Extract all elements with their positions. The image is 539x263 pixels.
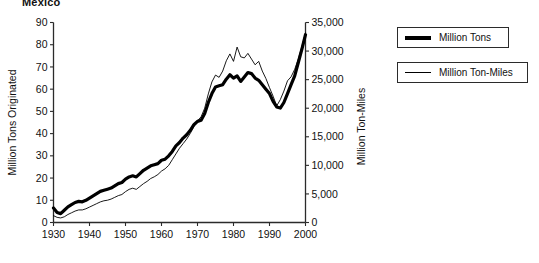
y-tick-label-left: 90 [36,16,48,28]
legend-label-million-tons: Million Tons [439,32,491,43]
y-tick-label-left: 70 [36,61,48,73]
series-line-1 [54,35,306,214]
y-tick-label-left: 30 [36,149,48,161]
y-tick-label-right: 25,000 [312,73,344,85]
x-tick-label: 1970 [186,228,210,240]
y-tick-label-right: 0 [312,216,318,228]
y-axis-label-right: Million Ton-Miles [355,88,367,165]
x-tick-label: 2000 [294,228,318,240]
x-tick-label: 1980 [222,228,246,240]
y-tick-label-right: 10,000 [312,159,344,171]
y-tick-label-left: 80 [36,38,48,50]
y-tick-label-left: 0 [42,216,48,228]
y-axis-label-left: Million Tons Originated [6,69,18,175]
x-tick-label: 1930 [42,228,66,240]
legend-item-million-tons[interactable]: Million Tons [397,27,509,48]
y-tick-label-left: 20 [36,172,48,184]
x-tick-label: 1950 [114,228,138,240]
series-line-2 [54,33,306,218]
y-tick-label-right: 30,000 [312,45,344,57]
y-tick-label-right: 5,000 [312,188,338,200]
legend-label-million-ton-miles: Million Ton-Miles [439,67,513,78]
y-tick-label-left: 10 [36,194,48,206]
y-tick-label-right: 15,000 [312,130,344,142]
y-tick-label-left: 60 [36,83,48,95]
x-tick-label: 1960 [150,228,174,240]
x-tick-label: 1940 [78,228,102,240]
y-tick-label-left: 50 [36,105,48,117]
chart-figure: Mexico 010203040506070809005,00010,00015… [0,0,539,263]
legend-swatch-thick-line-icon [405,36,431,40]
y-tick-label-left: 40 [36,127,48,139]
y-tick-label-right: 35,000 [312,16,344,28]
legend-item-million-ton-miles[interactable]: Million Ton-Miles [397,62,528,83]
y-tick-label-right: 20,000 [312,102,344,114]
x-tick-label: 1990 [258,228,282,240]
legend-swatch-thin-line-icon [405,72,431,73]
